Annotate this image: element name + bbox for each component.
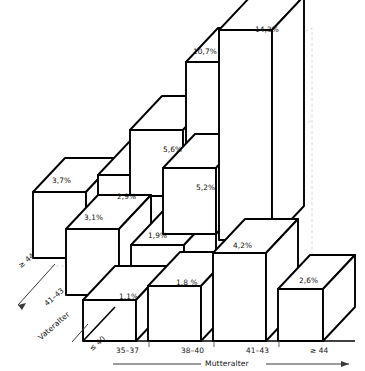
bar-mid-44plus: [219, 0, 304, 240]
x-tick-44plus: ≥ 44: [310, 347, 328, 354]
chart-figure: 3,7% 2,9% 5,6% 10,7% 3,1% 1,9% 5,2% 14,3…: [0, 0, 365, 371]
x-axis-title: Mutteralter: [205, 360, 249, 368]
value-label-front-44plus: 2,6%: [299, 277, 318, 284]
x-tick-38-40: 38–40: [181, 347, 204, 354]
value-label-mid-38-40: 1,9%: [148, 232, 167, 239]
value-label-back-35-37: 3,7%: [52, 177, 71, 184]
value-label-front-41-43: 4,2%: [233, 242, 252, 249]
x-tick-41-43: 41–43: [246, 347, 269, 354]
x-tick-35-37: 35–37: [116, 347, 139, 354]
value-label-back-38-40: 2,9%: [117, 193, 136, 200]
value-label-back-41-43: 5,6%: [163, 146, 182, 153]
value-label-back-44plus: 10,7%: [193, 48, 217, 55]
value-label-front-38-40: 1,8 %: [176, 279, 198, 286]
value-label-front-35-37: 1,1%: [119, 293, 138, 300]
chart-canvas: [0, 0, 365, 371]
value-label-mid-41-43: 5,2%: [196, 184, 215, 191]
value-label-mid-44plus: 14,3%: [255, 26, 279, 33]
value-label-mid-35-37: 3,1%: [84, 214, 103, 221]
